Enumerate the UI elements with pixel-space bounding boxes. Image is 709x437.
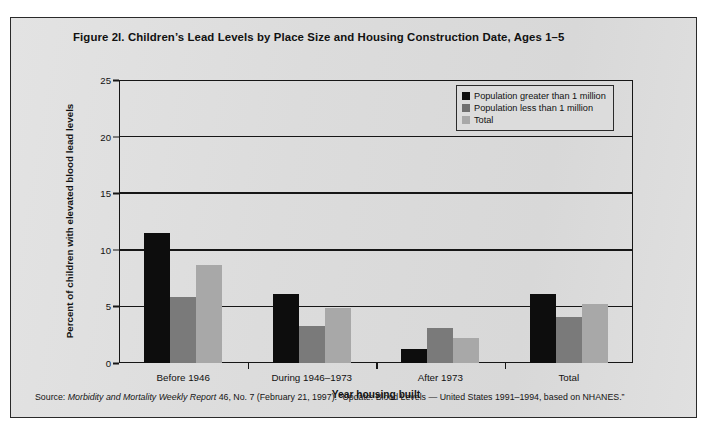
y-tick-label: 0 [106, 358, 111, 369]
bar [556, 317, 582, 363]
bar [582, 304, 608, 363]
gridline [119, 249, 633, 251]
bar [325, 308, 351, 363]
y-tick-label: 5 [106, 301, 111, 312]
figure-title: Figure 2l. Children’s Lead Levels by Pla… [73, 31, 564, 43]
x-tick-label: After 1973 [418, 372, 463, 383]
legend-item: Population less than 1 million [462, 102, 606, 114]
y-tick-mark [113, 193, 119, 195]
gridline [119, 192, 633, 194]
legend-swatch-icon [462, 116, 470, 124]
legend-swatch-icon [462, 92, 470, 100]
bar [144, 233, 170, 363]
x-tick-label: Before 1946 [157, 372, 210, 383]
bar [453, 338, 479, 363]
y-tick-label: 10 [100, 244, 111, 255]
source-publication: Morbidity and Mortality Weekly Report [68, 392, 216, 402]
legend-item: Total [462, 114, 606, 126]
y-tick-mark [113, 80, 119, 82]
bar [170, 297, 196, 363]
x-tick-label: During 1946–1973 [271, 372, 352, 383]
x-tick-label: Total [558, 372, 579, 383]
y-tick-mark [113, 249, 119, 251]
legend-label: Population less than 1 million [474, 103, 593, 113]
bar [401, 349, 427, 363]
y-tick-label: 25 [100, 75, 111, 86]
bar [273, 294, 299, 363]
source-note: Source: Morbidity and Mortality Weekly R… [35, 392, 625, 402]
x-tick-mark [505, 363, 507, 369]
gridline [119, 136, 633, 138]
bar [299, 326, 325, 363]
chart-plot-area: 0510152025 Before 1946During 1946–1973Af… [119, 80, 633, 363]
y-tick-label: 15 [100, 188, 111, 199]
bar [427, 328, 453, 363]
legend-label: Population greater than 1 million [474, 91, 606, 101]
y-axis-title: Percent of children with elevated blood … [64, 104, 75, 339]
x-tick-mark [376, 363, 378, 369]
figure-panel: Figure 2l. Children’s Lead Levels by Pla… [10, 17, 697, 418]
bar [530, 294, 556, 363]
source-detail: 46, No. 7 (February 21, 1997). “Update: … [216, 392, 624, 402]
source-prefix: Source: [35, 392, 68, 402]
y-tick-mark [113, 363, 119, 365]
y-tick-mark [113, 136, 119, 138]
x-tick-mark [248, 363, 250, 369]
legend-label: Total [474, 115, 493, 125]
screenshot-root: Figure 2l. Children’s Lead Levels by Pla… [0, 0, 709, 437]
chart-legend: Population greater than 1 million Popula… [456, 85, 614, 131]
y-tick-mark [113, 306, 119, 308]
legend-swatch-icon [462, 104, 470, 112]
legend-item: Population greater than 1 million [462, 90, 606, 102]
figure-inner: Figure 2l. Children’s Lead Levels by Pla… [11, 18, 696, 417]
bar [196, 265, 222, 363]
y-tick-label: 20 [100, 131, 111, 142]
